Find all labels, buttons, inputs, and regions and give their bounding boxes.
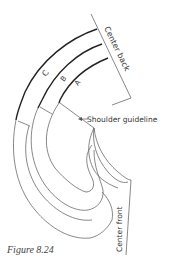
label-band-c: C — [40, 68, 51, 78]
label-center-front: Center front — [115, 206, 124, 252]
outer-curve — [13, 120, 112, 238]
center-front-line — [126, 180, 131, 255]
band-c-inner — [26, 126, 92, 220]
label-band-b: B — [59, 74, 68, 83]
neck-curve-3 — [94, 128, 131, 180]
pattern-diagram: Center back Shoulder guideline Center fr… — [0, 0, 179, 269]
neck-curve-2 — [94, 128, 128, 183]
figure-caption: Figure 8.24 — [7, 244, 54, 255]
center-back-foot — [112, 98, 131, 105]
tick-c — [18, 121, 30, 126]
tick-b — [40, 107, 52, 114]
label-band-a: A — [73, 78, 82, 87]
label-shoulder-guideline: Shoulder guideline — [87, 115, 158, 124]
label-center-back: Center back — [102, 25, 132, 73]
